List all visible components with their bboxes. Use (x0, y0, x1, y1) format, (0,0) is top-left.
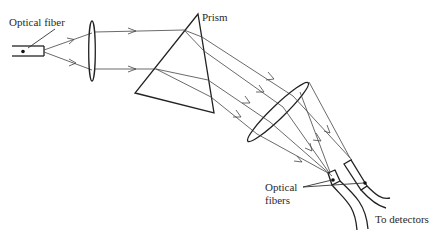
focusing-lens (243, 78, 312, 146)
optical-diagram: Optical fiber Prism (0, 0, 443, 236)
diverging-rays (44, 33, 92, 70)
collimated-rays (95, 28, 184, 72)
collimating-lens (89, 21, 96, 81)
output-fibers-label-line2: fibers (265, 194, 290, 206)
input-fiber-label: Optical fiber (9, 16, 65, 28)
output-fibers-label-line1: Optical (265, 181, 297, 193)
dispersed-rays (156, 30, 293, 134)
fiber-core-dot (21, 50, 25, 54)
detectors-label: To detectors (375, 213, 429, 225)
converging-rays (257, 82, 352, 176)
prism-label: Prism (202, 11, 228, 23)
prism (135, 14, 214, 113)
input-fiber-leader-line (28, 29, 55, 48)
